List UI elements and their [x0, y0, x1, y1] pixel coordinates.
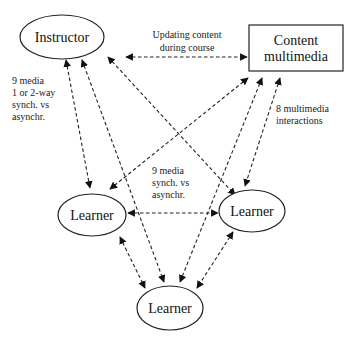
label-updating-line1: Updating content	[152, 29, 221, 40]
label-mm-line1: 8 multimedia	[276, 103, 330, 114]
interaction-diagram: Instructor Content multimedia Learner Le…	[0, 0, 351, 337]
node-content-multimedia: Content multimedia	[249, 25, 343, 71]
node-instructor-label: Instructor	[35, 30, 90, 45]
node-learner-left-label: Learner	[70, 208, 114, 223]
edge-learner-right-learner-bottom	[197, 232, 233, 288]
label-updating-line2: during course	[160, 42, 215, 53]
node-content-label-line1: Content	[274, 33, 318, 48]
label-il-line4: asynchr.	[12, 111, 45, 122]
edge-instructor-learner-left	[66, 60, 90, 188]
edge-content-learner-right	[245, 78, 280, 186]
node-learner-bottom-label: Learner	[148, 301, 192, 316]
label-il-line1: 9 media	[12, 75, 44, 86]
label-ll-line2: synch. vs	[152, 177, 189, 188]
label-mm-line2: interactions	[276, 115, 323, 126]
node-learner-left: Learner	[58, 194, 126, 236]
edge-learner-left-learner-bottom	[120, 237, 145, 288]
label-il-line3: synch. vs	[12, 99, 49, 110]
label-ll-line3: asynchr.	[152, 189, 185, 200]
node-content-label-line2: multimedia	[264, 49, 329, 64]
label-instructor-learner-media: 9 media 1 or 2-way synch. vs asynchr.	[12, 75, 55, 122]
label-il-line2: 1 or 2-way	[12, 87, 55, 98]
label-ll-line1: 9 media	[152, 165, 184, 176]
label-multimedia-interactions: 8 multimedia interactions	[276, 103, 330, 126]
node-learner-bottom: Learner	[137, 286, 203, 330]
label-updating-content: Updating content during course	[152, 29, 221, 53]
node-learner-right-label: Learner	[230, 204, 274, 219]
label-learner-learner-media: 9 media synch. vs asynchr.	[152, 165, 189, 200]
node-instructor: Instructor	[20, 15, 104, 59]
node-learner-right: Learner	[219, 190, 285, 232]
edge-content-learner-bottom	[180, 78, 262, 282]
